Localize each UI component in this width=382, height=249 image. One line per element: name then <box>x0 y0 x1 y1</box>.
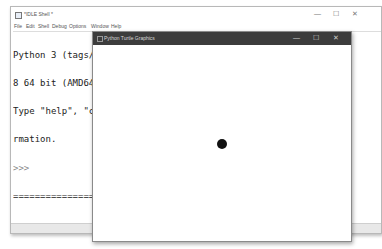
idle-maximize-button[interactable]: ☐ <box>333 10 339 18</box>
menu-help[interactable]: Help <box>111 23 121 29</box>
menu-window[interactable]: Window <box>91 23 109 29</box>
turtle-canvas[interactable] <box>93 45 351 241</box>
idle-minimize-button[interactable]: — <box>314 10 321 18</box>
idle-app-icon <box>15 12 22 19</box>
idle-title-bar[interactable]: *IDLE Shell * — ☐ ✕ <box>11 7 381 22</box>
menu-debug[interactable]: Debug <box>52 23 67 29</box>
turtle-graphics-window: Python Turtle Graphics — ☐ ✕ <box>92 31 352 242</box>
turtle-close-button[interactable]: ✕ <box>333 34 339 42</box>
idle-menu-bar: File Edit Shell Debug Options Window Hel… <box>11 22 381 31</box>
turtle-minimize-button[interactable]: — <box>293 34 300 42</box>
menu-options[interactable]: Options <box>69 23 86 29</box>
turtle-circle-shape <box>217 139 227 149</box>
turtle-maximize-button[interactable]: ☐ <box>313 34 319 42</box>
idle-close-button[interactable]: ✕ <box>352 10 358 18</box>
idle-window-title: *IDLE Shell * <box>24 11 53 17</box>
menu-shell[interactable]: Shell <box>38 23 49 29</box>
turtle-app-icon <box>97 36 103 42</box>
turtle-window-title: Python Turtle Graphics <box>104 35 155 41</box>
menu-edit[interactable]: Edit <box>26 23 35 29</box>
menu-file[interactable]: File <box>14 23 22 29</box>
turtle-title-bar[interactable]: Python Turtle Graphics — ☐ ✕ <box>93 32 351 45</box>
